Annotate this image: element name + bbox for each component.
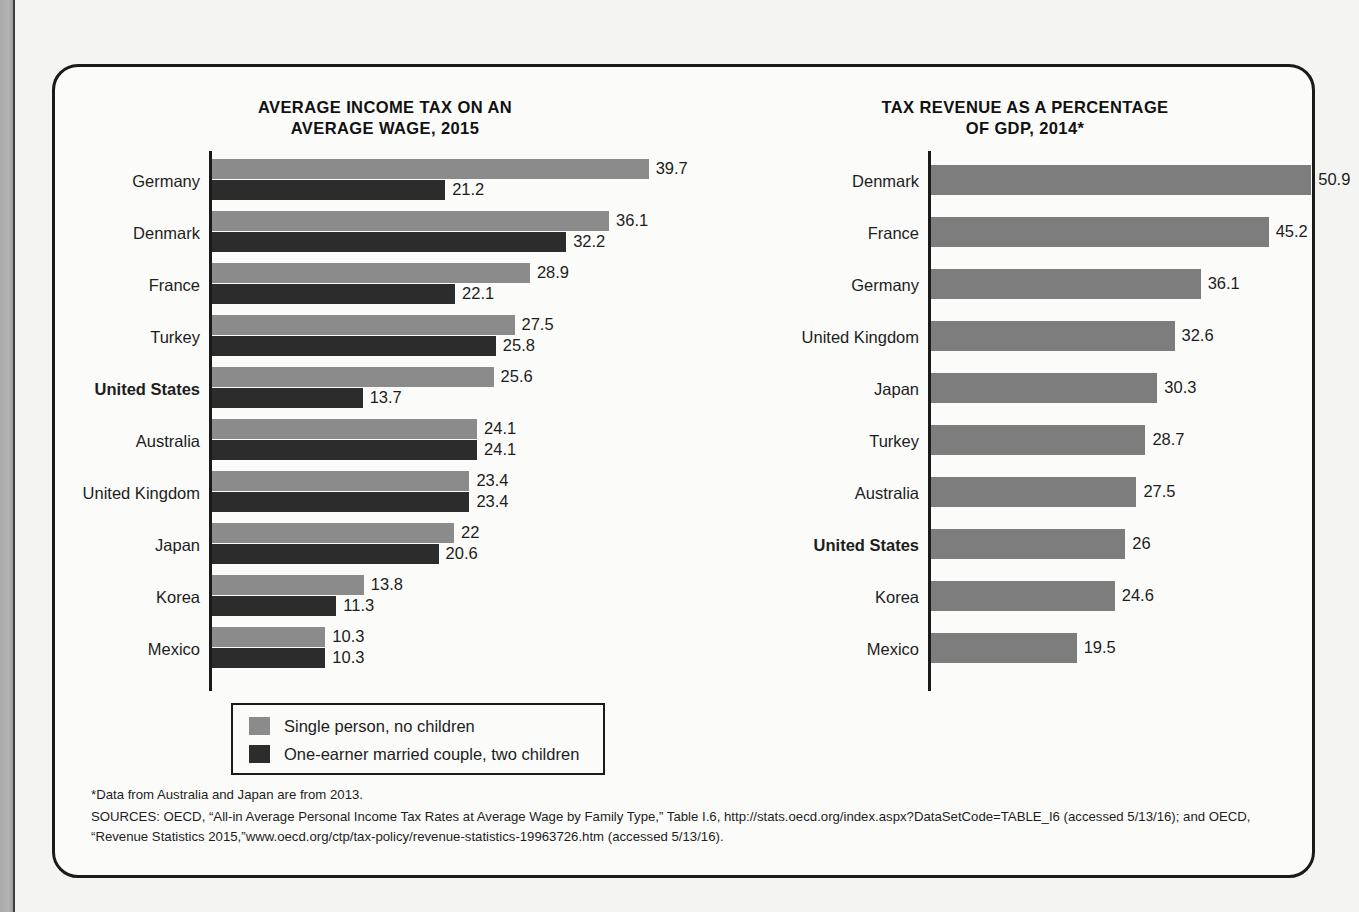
legend-item-married-couple: One-earner married couple, two children — [249, 741, 579, 767]
category-label-united-states: United States — [50, 380, 209, 399]
legend-swatch-icon — [249, 717, 270, 735]
bar-value-label: 26 — [1132, 533, 1150, 553]
footnote-asterisk: *Data from Australia and Japan are from … — [91, 785, 1291, 805]
category-label-korea: Korea — [50, 588, 209, 607]
category-label-denmark: Denmark — [711, 172, 928, 191]
bar-korea-s1 — [212, 596, 336, 616]
chart-title-income-tax: AVERAGE INCOME TAX ON AN AVERAGE WAGE, 2… — [115, 97, 655, 139]
bar-australia-s1 — [212, 440, 477, 460]
page-gutter-shadow — [0, 0, 13, 912]
category-label-germany: Germany — [50, 172, 209, 191]
bar-value-label: 27.5 — [1143, 481, 1175, 501]
category-label-united-kingdom: United Kingdom — [711, 328, 928, 347]
bar-germany-s0 — [931, 269, 1201, 299]
bar-denmark-s0 — [931, 165, 1311, 195]
bar-value-label: 25.6 — [501, 366, 533, 386]
category-label-korea: Korea — [711, 588, 928, 607]
bar-row: Korea24.6 — [715, 575, 1315, 619]
bar-france-s0 — [212, 263, 530, 283]
category-label-germany: Germany — [711, 276, 928, 295]
category-label-france: France — [50, 276, 209, 295]
bar-value-label: 36.1 — [616, 210, 648, 230]
bar-row: Mexico19.5 — [715, 627, 1315, 671]
bar-row: Germany39.721.2 — [55, 159, 715, 203]
category-label-japan: Japan — [711, 380, 928, 399]
bar-value-label: 22 — [461, 522, 479, 542]
bar-turkey-s0 — [931, 425, 1145, 455]
bar-value-label: 24.1 — [484, 418, 516, 438]
category-label-australia: Australia — [50, 432, 209, 451]
category-label-australia: Australia — [711, 484, 928, 503]
figure-container: AVERAGE INCOME TAX ON AN AVERAGE WAGE, 2… — [52, 64, 1315, 878]
bar-united-states-s1 — [212, 388, 363, 408]
bar-mexico-s0 — [212, 627, 325, 647]
bar-row: France45.2 — [715, 211, 1315, 255]
category-label-mexico: Mexico — [50, 640, 209, 659]
bar-korea-s0 — [931, 581, 1115, 611]
bar-value-label: 24.1 — [484, 439, 516, 459]
bar-row: Japan30.3 — [715, 367, 1315, 411]
bar-turkey-s0 — [212, 315, 515, 335]
category-label-france: France — [711, 224, 928, 243]
bar-value-label: 28.7 — [1152, 429, 1184, 449]
bar-germany-s0 — [212, 159, 649, 179]
bar-value-label: 11.3 — [343, 595, 374, 615]
bar-value-label: 23.4 — [476, 491, 508, 511]
bar-row: France28.922.1 — [55, 263, 715, 307]
category-label-japan: Japan — [50, 536, 209, 555]
bar-row: United States26 — [715, 523, 1315, 567]
bar-row: Australia27.5 — [715, 471, 1315, 515]
bar-value-label: 30.3 — [1164, 377, 1196, 397]
bar-row: Germany36.1 — [715, 263, 1315, 307]
bar-value-label: 22.1 — [462, 283, 494, 303]
legend-swatch-icon — [249, 745, 270, 763]
bar-value-label: 21.2 — [452, 179, 484, 199]
chart-legend: Single person, no children One-earner ma… — [231, 703, 605, 775]
bar-france-s1 — [212, 284, 455, 304]
bar-value-label: 24.6 — [1122, 585, 1154, 605]
bar-value-label: 50.9 — [1318, 169, 1350, 189]
bar-value-label: 27.5 — [522, 314, 554, 334]
bar-denmark-s1 — [212, 232, 566, 252]
bar-row: Korea13.811.3 — [55, 575, 715, 619]
bar-row: Turkey28.7 — [715, 419, 1315, 463]
bar-united-states-s0 — [931, 529, 1125, 559]
bar-value-label: 19.5 — [1084, 637, 1116, 657]
category-label-united-kingdom: United Kingdom — [50, 484, 209, 503]
category-label-mexico: Mexico — [711, 640, 928, 659]
bar-united-kingdom-s0 — [931, 321, 1175, 351]
legend-label: Single person, no children — [284, 717, 475, 736]
bar-value-label: 13.8 — [371, 574, 403, 594]
bar-japan-s0 — [931, 373, 1157, 403]
bar-mexico-s0 — [931, 633, 1077, 663]
bar-value-label: 45.2 — [1276, 221, 1308, 241]
bar-row: United States25.613.7 — [55, 367, 715, 411]
bar-korea-s0 — [212, 575, 364, 595]
bar-value-label: 28.9 — [537, 262, 569, 282]
bar-value-label: 32.6 — [1182, 325, 1214, 345]
footnote-sources: SOURCES: OECD, “All-in Average Personal … — [91, 807, 1291, 847]
bar-value-label: 10.3 — [332, 626, 364, 646]
category-label-turkey: Turkey — [50, 328, 209, 347]
bar-value-label: 25.8 — [503, 335, 535, 355]
bar-value-label: 39.7 — [656, 158, 688, 178]
bar-japan-s1 — [212, 544, 439, 564]
chart-title-tax-revenue: TAX REVENUE AS A PERCENTAGE OF GDP, 2014… — [745, 97, 1305, 139]
bar-denmark-s0 — [212, 211, 609, 231]
bar-value-label: 10.3 — [332, 647, 364, 667]
chart-title-line-1: AVERAGE INCOME TAX ON AN — [115, 97, 655, 118]
bar-value-label: 23.4 — [476, 470, 508, 490]
bar-france-s0 — [931, 217, 1269, 247]
bar-value-label: 20.6 — [446, 543, 478, 563]
category-label-denmark: Denmark — [50, 224, 209, 243]
category-label-united-states: United States — [711, 536, 928, 555]
bar-mexico-s1 — [212, 648, 325, 668]
bar-value-label: 32.2 — [573, 231, 605, 251]
bar-japan-s0 — [212, 523, 454, 543]
chart-title-line-2: OF GDP, 2014* — [745, 118, 1305, 139]
bar-australia-s0 — [212, 419, 477, 439]
bar-turkey-s1 — [212, 336, 496, 356]
bar-row: United Kingdom23.423.4 — [55, 471, 715, 515]
legend-item-single-person: Single person, no children — [249, 713, 475, 739]
legend-label: One-earner married couple, two children — [284, 745, 579, 764]
